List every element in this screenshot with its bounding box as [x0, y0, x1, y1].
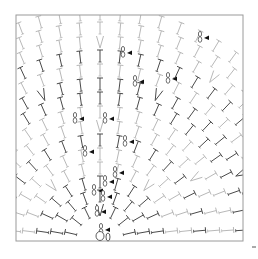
arrow-marker-icon [89, 150, 94, 155]
arrow-marker-icon [109, 180, 114, 185]
arrow-marker-icon [127, 51, 132, 56]
cluster-marker [113, 166, 124, 177]
chart-extras [96, 232, 256, 248]
stitch-row [0, 36, 258, 233]
chart-canvas [0, 0, 258, 259]
arrow-marker-icon [129, 140, 134, 145]
arrow-marker-icon [105, 228, 110, 233]
stitch-rows [0, 8, 258, 236]
arrow-marker-icon [172, 77, 177, 82]
chart-frame [16, 15, 243, 241]
arrow-marker-icon [107, 195, 112, 200]
arrow-marker-icon [119, 171, 124, 176]
cluster-marker [123, 135, 134, 146]
stitch-row [0, 8, 258, 233]
stitch-row [0, 64, 258, 233]
cluster-marker [101, 190, 112, 201]
cluster-marker [83, 145, 94, 156]
cluster-marker [103, 175, 114, 186]
cluster-marker [198, 31, 209, 42]
cluster-marker [166, 72, 177, 83]
arrow-marker-icon [204, 36, 209, 41]
cluster-marker [121, 46, 132, 57]
center-ring-icon [96, 232, 104, 241]
crochet-chart: Crochet stitch chart [0, 0, 258, 259]
arrow-marker-icon [109, 117, 114, 122]
cluster-marker [103, 112, 114, 123]
